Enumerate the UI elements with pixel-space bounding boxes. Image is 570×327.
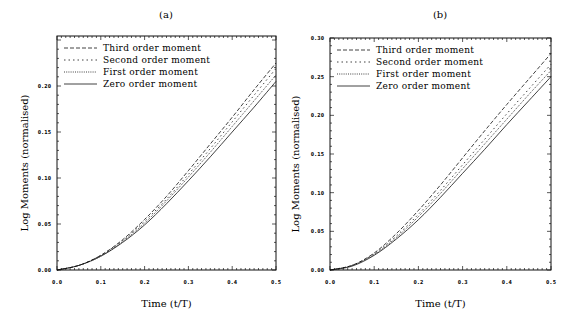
x-axis-label: Time (t/T) <box>415 298 465 309</box>
x-axis-label: Time (t/T) <box>141 298 191 309</box>
y-tick-label: 0.15 <box>311 151 324 157</box>
legend-label: First order moment <box>376 69 471 79</box>
legend-label: Zero order moment <box>103 79 198 89</box>
series-line-second-order-moment <box>330 64 551 270</box>
legend-label: Third order moment <box>376 45 474 55</box>
x-tick-label: 0.0 <box>52 279 62 285</box>
panel-b: 0.00.10.20.30.40.50.000.050.100.150.200.… <box>290 9 556 309</box>
y-tick-label: 0.15 <box>38 129 51 135</box>
legend-label: Zero order moment <box>376 81 471 91</box>
y-tick-label: 0.20 <box>311 112 324 118</box>
x-tick-label: 0.2 <box>140 279 150 285</box>
y-tick-label: 0.10 <box>38 175 51 181</box>
series-line-first-order-moment <box>57 75 276 270</box>
panel-a: 0.00.10.20.30.40.50.000.050.100.150.20Th… <box>19 9 281 309</box>
y-tick-label: 0.30 <box>311 35 324 41</box>
x-tick-label: 0.1 <box>369 279 380 285</box>
y-tick-label: 0.10 <box>311 190 324 196</box>
y-tick-label: 0.00 <box>38 267 51 273</box>
figure: 0.00.10.20.30.40.50.000.050.100.150.20Th… <box>0 0 570 327</box>
legend-label: Second order moment <box>103 55 210 65</box>
x-tick-label: 0.5 <box>271 279 281 285</box>
legend-label: Second order moment <box>376 57 483 67</box>
x-tick-label: 0.4 <box>227 279 238 285</box>
x-tick-label: 0.4 <box>502 279 513 285</box>
y-tick-label: 0.25 <box>311 74 324 80</box>
x-tick-label: 0.5 <box>546 279 556 285</box>
legend-label: First order moment <box>103 67 198 77</box>
y-axis-label: Log Moments (normalised) <box>19 94 30 231</box>
series-line-zero-order-moment <box>57 81 276 270</box>
y-tick-label: 0.00 <box>311 267 324 273</box>
y-tick-label: 0.20 <box>38 83 51 89</box>
chart-title: (a) <box>159 9 173 20</box>
x-tick-label: 0.0 <box>325 279 335 285</box>
chart-title: (b) <box>433 9 447 20</box>
y-tick-label: 0.05 <box>38 221 51 227</box>
x-tick-label: 0.3 <box>183 279 193 285</box>
legend-label: Third order moment <box>103 43 201 53</box>
x-tick-label: 0.1 <box>96 279 107 285</box>
y-axis-label: Log Moments (normalised) <box>290 95 301 232</box>
series-line-zero-order-moment <box>330 77 551 270</box>
x-tick-label: 0.3 <box>458 279 468 285</box>
series-line-third-order-moment <box>57 63 276 270</box>
series-line-first-order-moment <box>330 70 551 270</box>
y-tick-label: 0.05 <box>311 228 324 234</box>
x-tick-label: 0.2 <box>413 279 423 285</box>
series-line-second-order-moment <box>57 69 276 270</box>
